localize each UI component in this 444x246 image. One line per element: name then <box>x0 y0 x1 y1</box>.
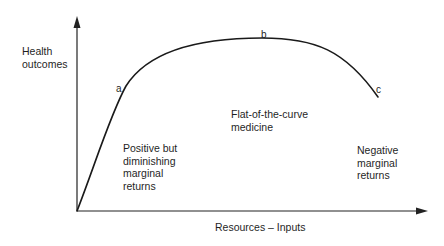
x-axis-label: Resources – Inputs <box>215 221 305 234</box>
health-outcomes-curve-diagram: Health outcomes a b c Positive but dimin… <box>0 0 444 246</box>
y-axis-arrow-icon <box>74 16 81 28</box>
point-label-a: a <box>116 83 122 94</box>
point-label-b: b <box>261 29 267 40</box>
x-axis-arrow-icon <box>416 208 428 215</box>
diagram-canvas <box>0 0 444 246</box>
y-axis <box>74 16 81 211</box>
point-label-c: c <box>376 84 381 95</box>
region-label-negative-returns: Negative marginal returns <box>357 144 398 182</box>
region-label-flat-of-the-curve: Flat-of-the-curve medicine <box>231 108 308 133</box>
y-axis-label: Health outcomes <box>22 45 68 70</box>
region-label-positive-diminishing: Positive but diminishing marginal return… <box>123 142 177 192</box>
x-axis <box>77 208 428 215</box>
